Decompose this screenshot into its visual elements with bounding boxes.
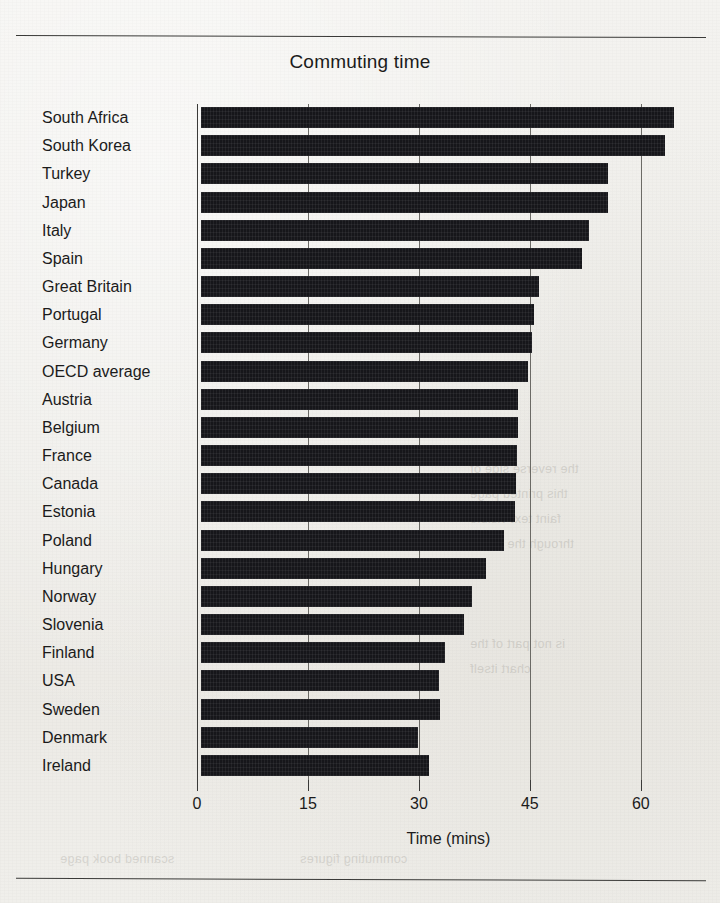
tickmark-45 [530,780,531,791]
category-label: Denmark [0,724,186,752]
scanned-book-page: the reverse side of this printed page fa… [0,0,720,903]
bar [201,614,464,635]
bar [201,220,589,241]
tickmark-0 [197,780,198,791]
category-label: Belgium [0,414,186,442]
category-label: Norway [0,583,186,611]
bar [201,699,440,720]
bar [201,248,582,269]
x-tick-label: 15 [278,795,338,813]
category-label: Spain [0,245,186,273]
category-label: Great Britain [0,273,186,301]
x-tick-label: 45 [500,795,560,813]
gridline-0 [197,104,198,780]
category-label: Poland [0,527,186,555]
bar [201,586,472,607]
x-axis-label: Time (mins) [197,830,700,848]
showthrough-text: commuting figures [300,852,407,866]
bar [201,530,504,551]
category-label: Finland [0,639,186,667]
category-label: USA [0,667,186,695]
category-label: South Africa [0,104,186,132]
category-label: Italy [0,217,186,245]
category-label: Ireland [0,752,186,780]
category-label: Estonia [0,498,186,526]
chart-title: Commuting time [0,51,720,73]
showthrough-text: scanned book page [60,852,174,866]
category-label: Slovenia [0,611,186,639]
x-tick-label: 60 [611,795,671,813]
bar [201,727,418,748]
category-label: France [0,442,186,470]
bar [201,501,515,522]
bar-series [201,104,700,780]
bar [201,642,445,663]
category-label: Sweden [0,696,186,724]
bar [201,304,534,325]
bar [201,755,429,776]
category-label: Hungary [0,555,186,583]
category-label: OECD average [0,358,186,386]
bar [201,389,518,410]
bar [201,670,439,691]
bar [201,276,539,297]
category-label: Germany [0,329,186,357]
x-tick-label: 30 [389,795,449,813]
category-label: Austria [0,386,186,414]
category-axis-labels: South AfricaSouth KoreaTurkeyJapanItalyS… [0,104,186,780]
bar [201,473,516,494]
category-label: Canada [0,470,186,498]
bar [201,107,674,128]
bar [201,163,608,184]
category-label: Turkey [0,160,186,188]
plot-area: 015304560 [197,104,700,780]
x-tick-label: 0 [167,795,227,813]
bar [201,332,532,353]
category-label: Japan [0,189,186,217]
bar [201,445,517,466]
page-rule-top [16,35,706,38]
bar [201,192,608,213]
page-rule-bottom [16,878,706,881]
tickmark-15 [308,780,309,791]
bar [201,417,518,438]
category-label: South Korea [0,132,186,160]
category-label: Portugal [0,301,186,329]
tickmark-60 [641,780,642,791]
bar [201,558,486,579]
bar [201,135,665,156]
bar [201,361,528,382]
tickmark-30 [419,780,420,791]
